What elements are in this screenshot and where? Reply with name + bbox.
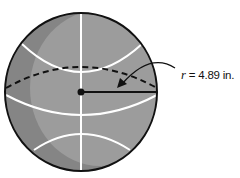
radius-label: r = 4.89 in. bbox=[181, 68, 234, 83]
sphere-highlight bbox=[30, 10, 170, 166]
center-point bbox=[78, 89, 85, 96]
sphere-diagram bbox=[0, 0, 240, 178]
